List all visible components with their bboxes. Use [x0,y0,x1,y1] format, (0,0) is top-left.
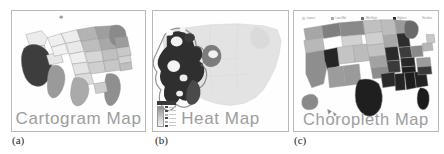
panel-title-heatmap: Heat Map [153,109,288,129]
panel-title-choropleth: Choropleth Map [294,109,438,129]
panel-choropleth[interactable]: Lowest Low-Mid Mid-High Highest No data [293,10,439,132]
legend-row [165,106,176,108]
legend-line [169,107,176,108]
panel-cartogram[interactable]: Cartogram Map [11,10,146,132]
figure-container: Cartogram Map (a) [0,0,444,154]
caption-c: (c) [294,134,306,146]
panel-title-cartogram: Cartogram Map [12,109,145,129]
legend-swatch [165,106,168,108]
heatmap-legend-header [157,101,176,105]
panel-heatmap[interactable]: Heat Map [152,10,289,132]
caption-a: (a) [12,134,24,146]
caption-b: (b) [155,134,168,146]
